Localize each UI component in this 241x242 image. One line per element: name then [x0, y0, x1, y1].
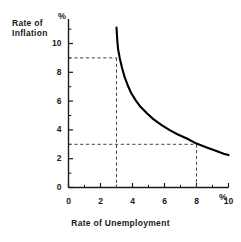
- x-tick-label: 0: [61, 196, 77, 206]
- y-tick-label: 0: [46, 182, 62, 192]
- x-tick-label: 10: [221, 196, 237, 206]
- y-tick-label: 10: [46, 38, 62, 48]
- y-axis-title: Rate of Inflation: [12, 18, 48, 38]
- x-tick-label: 4: [125, 196, 141, 206]
- x-tick-label: 8: [189, 196, 205, 206]
- x-tick-label: 2: [93, 196, 109, 206]
- y-tick-label: 4: [46, 124, 62, 134]
- phillips-curve-line: [117, 28, 229, 155]
- phillips-curve-figure: Rate of Inflation % % Rate of Unemployme…: [0, 0, 241, 242]
- y-tick-label: 6: [46, 96, 62, 106]
- y-axis-percent-symbol: %: [58, 11, 66, 21]
- x-axis-title: Rate of Unemployment: [0, 218, 241, 228]
- x-tick-label: 6: [157, 196, 173, 206]
- y-axis-title-line1: Rate of: [12, 18, 43, 28]
- guide-lines: [69, 58, 197, 188]
- tick-marks: [69, 29, 229, 187]
- axis-lines: [69, 19, 229, 187]
- y-tick-label: 8: [46, 67, 62, 77]
- y-tick-label: 2: [46, 153, 62, 163]
- y-axis-title-line2: Inflation: [12, 28, 48, 38]
- data-curves: [117, 28, 229, 155]
